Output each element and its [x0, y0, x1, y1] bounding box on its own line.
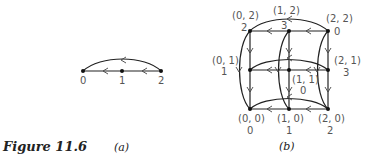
coord-2-2: (2, 2)	[326, 13, 353, 24]
coord-2-0: (2, 0)	[318, 113, 345, 124]
node-1	[120, 69, 124, 73]
coord-0-2: (0, 2)	[232, 10, 259, 21]
coord-0-0: (0, 0)	[238, 113, 265, 124]
arrow-left-icon	[121, 57, 126, 63]
node-2-0	[326, 107, 330, 111]
coord-2-1: (2, 1)	[334, 55, 361, 66]
value-2-1: 3	[343, 67, 349, 78]
panel-a-graph	[81, 57, 163, 74]
value-1-0: 1	[286, 125, 292, 136]
node-0	[81, 69, 85, 73]
node-0-0	[248, 107, 252, 111]
node-2-1	[326, 68, 330, 72]
coord-1-1: (1, 1)	[292, 74, 319, 85]
coord-1-2: (1, 2)	[273, 5, 300, 16]
value-0-2: 2	[241, 22, 247, 33]
node-label-2: 2	[158, 75, 164, 86]
figure-caption: Figure 11.6	[2, 139, 87, 154]
node-2	[159, 69, 163, 73]
node-0-2	[248, 29, 252, 33]
value-2-2: 0	[334, 26, 340, 37]
node-1-1	[287, 68, 291, 72]
value-1-1: 0	[300, 85, 306, 96]
node-1-2	[287, 29, 291, 33]
value-0-1: 1	[221, 66, 227, 77]
panel-a-label: (a)	[114, 141, 129, 154]
value-2-0: 2	[327, 125, 333, 136]
value-1-2: 3	[281, 20, 287, 31]
value-0-0: 0	[247, 125, 253, 136]
node-0-1	[248, 68, 252, 72]
node-label-1: 1	[119, 75, 125, 86]
node-1-0	[287, 107, 291, 111]
coord-0-1: (0, 1)	[212, 55, 239, 66]
node-label-0: 0	[80, 75, 86, 86]
coord-1-0: (1, 0)	[277, 113, 304, 124]
panel-b-label: (b)	[279, 140, 295, 153]
figure-canvas: 0 1 2 (a) Figure 11.6	[0, 0, 373, 162]
node-2-2	[326, 29, 330, 33]
